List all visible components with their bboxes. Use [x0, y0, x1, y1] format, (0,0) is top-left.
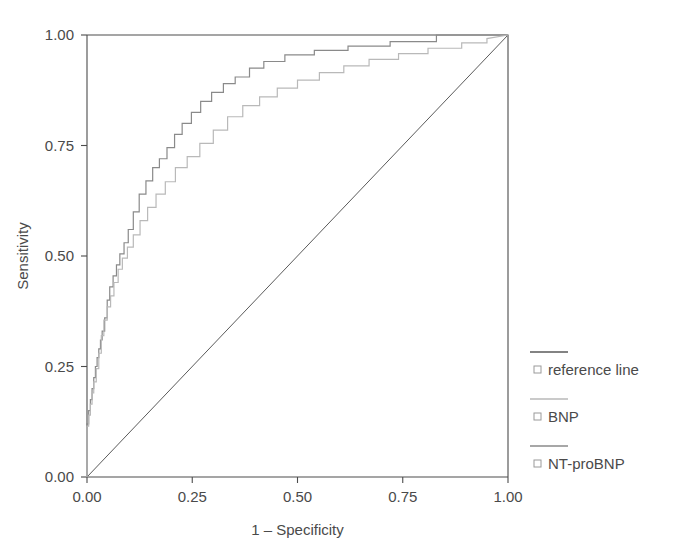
y-tick-label-4: 1.00: [45, 26, 74, 43]
y-tick-label-3: 0.75: [45, 137, 74, 154]
roc-chart: 0.000.250.500.751.000.000.250.500.751.00…: [0, 0, 675, 560]
roc-figure: 0.000.250.500.751.000.000.250.500.751.00…: [0, 0, 675, 560]
x-tick-label-4: 1.00: [493, 488, 522, 505]
legend-label-0: reference line: [548, 361, 639, 378]
x-tick-label-0: 0.00: [72, 488, 101, 505]
legend-marker-2: [534, 460, 541, 467]
y-tick-label-1: 0.25: [45, 358, 74, 375]
series-reference-line: [87, 35, 508, 477]
legend-marker-1: [534, 413, 541, 420]
y-tick-label-0: 0.00: [45, 468, 74, 485]
legend-marker-0: [534, 366, 541, 373]
legend-label-2: NT-proBNP: [548, 455, 625, 472]
x-tick-label-3: 0.75: [388, 488, 417, 505]
x-axis-title: 1 – Specificity: [251, 521, 344, 538]
y-axis-title: Sensitivity: [14, 222, 31, 290]
x-tick-label-1: 0.25: [178, 488, 207, 505]
legend-label-1: BNP: [548, 408, 579, 425]
x-tick-label-2: 0.50: [283, 488, 312, 505]
y-tick-label-2: 0.50: [45, 247, 74, 264]
